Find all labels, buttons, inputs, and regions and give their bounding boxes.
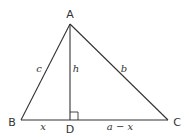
right-angle-marker bbox=[70, 112, 78, 120]
vertex-label-b: B bbox=[8, 116, 16, 129]
vertex-label-a: A bbox=[66, 8, 74, 21]
side-ab bbox=[21, 24, 70, 120]
segment-label-a-minus-x: a − x bbox=[107, 121, 134, 132]
triangle-diagram: A B C D c h b x a − x bbox=[0, 0, 189, 137]
segment-label-x: x bbox=[40, 121, 46, 132]
side-ac bbox=[70, 24, 168, 120]
altitude-label-h: h bbox=[73, 63, 79, 74]
vertex-label-c: C bbox=[173, 116, 181, 129]
side-label-b: b bbox=[121, 63, 127, 74]
vertex-label-d: D bbox=[66, 123, 74, 136]
side-label-c: c bbox=[36, 63, 42, 74]
